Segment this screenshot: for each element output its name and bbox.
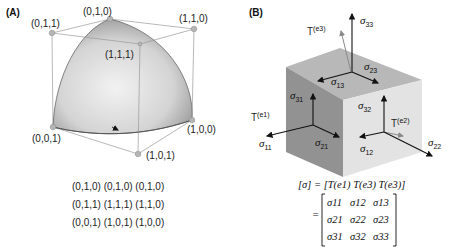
matrix-right-bracket <box>393 194 396 246</box>
figure-canvas: (A) (0,1, <box>0 0 449 249</box>
sigma11-label: σ11 <box>259 137 272 151</box>
curved-surface <box>53 19 192 134</box>
traction-e1-label: T(e1) <box>251 111 270 123</box>
vertex-label-001: (0,0,1) <box>32 133 61 144</box>
vertex-dot-001 <box>50 124 56 130</box>
panel-b-label: (B) <box>249 7 263 18</box>
vertex-label-110: (1,1,0) <box>179 13 208 24</box>
matrix-cell: σ32 <box>350 231 366 242</box>
equation-lhs: [σ] = [T(e1) T(e3) T(e3)] <box>298 179 405 191</box>
vertex-dot-110 <box>191 26 197 32</box>
matrix-cell: σ12 <box>350 197 366 208</box>
vertex-label-010: (0,1,0) <box>83 6 112 17</box>
matrix-cell: σ31 <box>327 231 343 242</box>
matrix-cell: σ21 <box>327 214 343 225</box>
panel-b: (B) σ33 σ23 σ13 σ31 σ32 σ11 σ21 σ12 σ22 <box>249 7 441 246</box>
vertex-label-011: (0,1,1) <box>31 18 60 29</box>
matrix-cell: σ13 <box>373 197 389 208</box>
matrix-cell: σ22 <box>350 214 366 225</box>
matrix-cell: σ23 <box>373 214 389 225</box>
traction-e3-label: T(e3) <box>307 25 326 37</box>
vertex-dot-100 <box>189 117 195 123</box>
vertex-dot-111 <box>138 42 142 46</box>
equation-equals: = <box>312 209 319 220</box>
matrix-cell: σ33 <box>373 231 389 242</box>
vertex-dot-010 <box>107 16 113 22</box>
vertex-dot-101 <box>135 151 141 157</box>
stress-tensor-equation: [σ] = [T(e1) T(e3) T(e3)] = σ11 σ12 σ13 … <box>298 179 405 246</box>
panel-a-label: (A) <box>6 7 20 18</box>
grid-row-2: (0,1,1) (1,1,1) (1,1,0) <box>72 199 164 210</box>
sigma33-label: σ33 <box>360 14 373 28</box>
panel-a: (A) (0,1, <box>6 6 216 228</box>
sigma22-label: σ22 <box>428 136 441 150</box>
vertex-label-101: (1,0,1) <box>146 150 175 161</box>
grid-row-3: (0,0,1) (1,0,1) (1,0,0) <box>72 217 164 228</box>
grid-row-1: (0,1,0) (0,1,0) (0,1,0) <box>72 181 164 192</box>
matrix-cell: σ11 <box>327 197 342 208</box>
matrix-left-bracket <box>322 194 325 246</box>
vertex-label-100: (1,0,0) <box>187 124 216 135</box>
vertex-dot-011 <box>49 30 55 36</box>
vertex-label-111: (1,1,1) <box>105 49 134 60</box>
